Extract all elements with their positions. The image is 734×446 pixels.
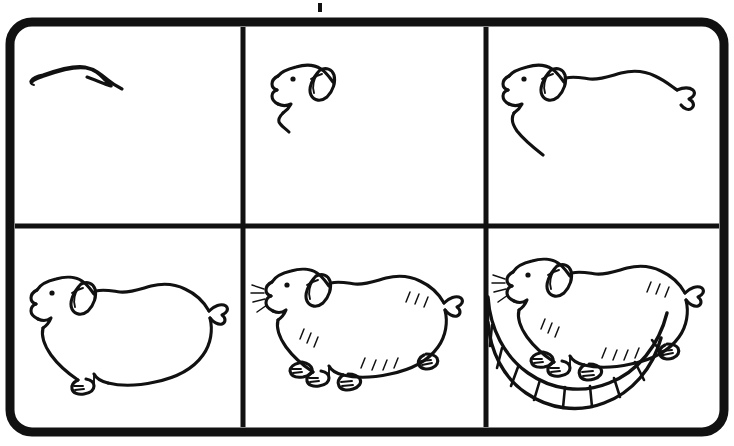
panel-6-step-6[interactable] — [486, 226, 719, 427]
panel-4-hit-area[interactable] — [15, 226, 243, 427]
eye-dot — [525, 272, 530, 277]
eye-dot — [521, 76, 526, 81]
scan-speck — [318, 3, 322, 12]
drawing-tutorial-sheet — [0, 0, 734, 446]
eye-dot — [290, 76, 295, 81]
panel-5-hit-area[interactable] — [243, 226, 486, 427]
panel-4-step-4[interactable] — [15, 226, 243, 427]
tutorial-canvas — [0, 0, 734, 446]
panel-3-hit-area[interactable] — [486, 27, 719, 226]
panel-3-step-3[interactable] — [486, 27, 719, 226]
eye-dot — [49, 290, 54, 295]
eye-dot — [284, 282, 289, 287]
panel-1-hit-area[interactable] — [15, 27, 243, 226]
panel-2-step-2[interactable] — [243, 27, 486, 226]
panel-1-step-1[interactable] — [15, 27, 243, 226]
panel-2-hit-area[interactable] — [243, 27, 486, 226]
